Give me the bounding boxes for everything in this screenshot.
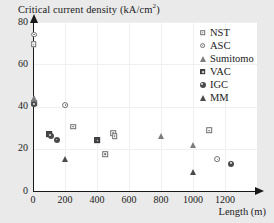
legend-marker-asc-glyph-icon: [200, 43, 206, 49]
data-point-asc: [62, 102, 68, 108]
data-point-sumitomo: [190, 142, 196, 148]
x-axis-tick-label: 0: [18, 194, 48, 205]
data-point-igc: [54, 137, 60, 143]
legend-marker-igc-icon: [196, 78, 209, 91]
legend-item-nst[interactable]: NST: [196, 26, 268, 39]
data-point-nst: [31, 41, 37, 47]
x-axis-tick-label: 600: [114, 194, 144, 205]
legend-item-igc[interactable]: IGC: [196, 78, 268, 91]
legend-item-label: ASC: [210, 40, 230, 51]
legend-marker-nst-icon: [196, 26, 209, 39]
legend-marker-vac-icon: [196, 65, 209, 78]
x-axis-line: [33, 191, 257, 192]
legend-marker-vac-glyph-icon: [200, 69, 206, 75]
gridline-horizontal: [33, 22, 257, 23]
x-axis-label: Length (m): [218, 206, 266, 217]
figure-container: Critical current density (kA/cm2) Length…: [0, 0, 274, 223]
gridline-horizontal: [33, 149, 257, 150]
chart-legend: NSTASCSumitomoVACIGCMM: [196, 26, 268, 104]
x-axis-tick-label: 200: [50, 194, 80, 205]
data-point-vac: [94, 137, 100, 143]
data-point-igc: [31, 101, 37, 107]
y-axis-tick-label: 60: [2, 58, 28, 69]
data-point-nst: [206, 127, 212, 133]
legend-marker-mm-icon: [196, 91, 209, 104]
chart-title-tail: ): [156, 4, 160, 15]
chart-title-main: Critical current density (kA/cm: [18, 4, 153, 15]
x-axis-tick-label: 400: [82, 194, 112, 205]
data-point-nst: [112, 133, 118, 139]
legend-item-label: MM: [210, 92, 229, 103]
legend-item-label: Sumitomo: [210, 53, 254, 64]
legend-item-sumitomo[interactable]: Sumitomo: [196, 52, 268, 65]
y-axis-tick-label: 20: [2, 142, 28, 153]
data-point-nst: [102, 151, 108, 157]
x-axis-tick-label: 1200: [210, 194, 240, 205]
legend-item-asc[interactable]: ASC: [196, 39, 268, 52]
legend-item-mm[interactable]: MM: [196, 91, 268, 104]
data-point-sumitomo: [158, 133, 164, 139]
legend-item-label: NST: [210, 27, 230, 38]
chart-title: Critical current density (kA/cm2): [18, 2, 160, 15]
legend-marker-nst-glyph-icon: [200, 30, 206, 36]
data-point-asc: [214, 156, 220, 162]
y-axis-tick-label: 40: [2, 100, 28, 111]
y-axis-tick-label: 80: [2, 16, 28, 27]
x-axis-tick-label: 1000: [178, 194, 208, 205]
data-point-igc: [228, 161, 234, 167]
legend-item-vac[interactable]: VAC: [196, 65, 268, 78]
legend-marker-mm-glyph-icon: [200, 95, 206, 101]
x-axis-arrow-icon: [255, 187, 264, 195]
data-point-mm: [62, 156, 68, 162]
y-axis-arrow-icon: [30, 14, 38, 23]
legend-marker-sumitomo-glyph-icon: [200, 56, 206, 62]
legend-marker-igc-glyph-icon: [200, 82, 206, 88]
legend-item-label: VAC: [210, 66, 231, 77]
data-point-asc: [31, 32, 37, 38]
x-axis-tick-label: 800: [146, 194, 176, 205]
data-point-igc: [48, 133, 54, 139]
legend-marker-sumitomo-icon: [196, 52, 209, 65]
legend-marker-asc-icon: [196, 39, 209, 52]
data-point-nst: [70, 124, 76, 130]
legend-item-label: IGC: [210, 79, 228, 90]
data-point-mm: [190, 169, 196, 175]
